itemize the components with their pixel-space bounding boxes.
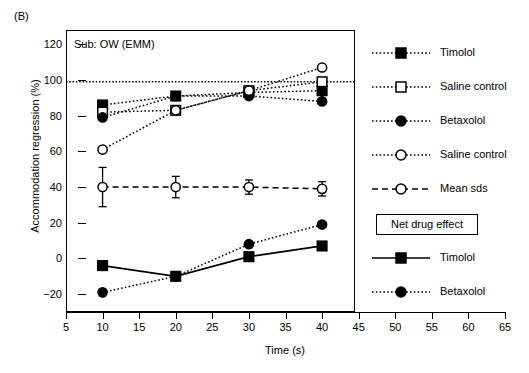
- legend-marker: [396, 184, 406, 194]
- legend-marker: [396, 82, 406, 92]
- x-tick-label: 10: [88, 321, 118, 333]
- legend-item[interactable]: Mean sds: [368, 174, 528, 208]
- legend-symbol: [368, 72, 434, 102]
- legend-symbol: [368, 106, 434, 136]
- x-tick-mark: [359, 312, 360, 319]
- y-axis-labels: −20020406080100120: [20, 0, 62, 373]
- legend-label: Betaxolol: [440, 285, 485, 297]
- legend-symbol: [368, 38, 434, 68]
- subject-annotation: Sub: OW (EMM): [74, 38, 155, 50]
- legend-item[interactable]: Saline control: [368, 140, 528, 174]
- legend-label: Timolol: [440, 251, 475, 263]
- legend: TimololSaline controlBetaxololSaline con…: [368, 38, 528, 208]
- x-tick-mark: [212, 312, 213, 319]
- x-tick-label: 45: [344, 321, 374, 333]
- legend-marker: [396, 253, 406, 263]
- y-tick-mark: [78, 223, 86, 224]
- legend-symbol: [368, 140, 434, 170]
- legend-label: Mean sds: [440, 182, 488, 194]
- legend-item[interactable]: Saline control: [368, 72, 528, 106]
- y-tick-mark: [78, 151, 86, 152]
- legend-symbol: [368, 277, 434, 307]
- legend-marker: [396, 48, 406, 58]
- x-tick-label: 35: [271, 321, 301, 333]
- x-tick-mark: [322, 312, 323, 319]
- x-tick-mark: [286, 312, 287, 319]
- y-tick-mark: [78, 116, 86, 117]
- x-tick-label: 60: [453, 321, 483, 333]
- legend-item[interactable]: Betaxolol: [368, 106, 528, 140]
- x-tick-label: 25: [197, 321, 227, 333]
- legend-marker: [396, 116, 406, 126]
- x-tick-label: 40: [307, 321, 337, 333]
- legend-marker: [396, 150, 406, 160]
- legend-label: Betaxolol: [440, 114, 485, 126]
- legend-marker: [396, 287, 406, 297]
- net-legend-item[interactable]: Betaxolol: [368, 277, 528, 311]
- legend-line-sample: [368, 72, 434, 102]
- legend-line-sample: [368, 38, 434, 68]
- x-axis-title: Time (s): [265, 344, 305, 356]
- legend-item[interactable]: Timolol: [368, 38, 528, 72]
- x-tick-mark: [505, 312, 506, 319]
- plot-area: [66, 30, 355, 312]
- y-tick-mark: [78, 44, 86, 45]
- legend-line-sample: [368, 243, 434, 273]
- x-tick-mark: [468, 312, 469, 319]
- net-drug-effect-label: Net drug effect: [376, 218, 478, 230]
- legend-line-sample: [368, 106, 434, 136]
- legend-line-sample: [368, 277, 434, 307]
- y-tick-label: −20: [28, 288, 62, 300]
- net-drug-effect-legend: TimololBetaxolol: [368, 243, 528, 311]
- y-tick-label: 0: [28, 252, 62, 264]
- x-tick-label: 30: [234, 321, 264, 333]
- net-legend-item[interactable]: Timolol: [368, 243, 528, 277]
- y-tick-mark: [78, 294, 86, 295]
- x-tick-label: 5: [51, 321, 81, 333]
- x-tick-label: 15: [124, 321, 154, 333]
- chart-figure: (B) Sub: OW (EMM) −20020406080100120 Acc…: [0, 0, 529, 373]
- legend-symbol: [368, 174, 434, 204]
- x-tick-label: 20: [161, 321, 191, 333]
- x-tick-mark: [249, 312, 250, 319]
- y-tick-mark: [78, 80, 86, 81]
- x-tick-mark: [139, 312, 140, 319]
- y-tick-mark: [78, 258, 86, 259]
- legend-symbol: [368, 243, 434, 273]
- x-tick-mark: [103, 312, 104, 319]
- x-tick-label: 55: [417, 321, 447, 333]
- x-tick-mark: [176, 312, 177, 319]
- legend-label: Saline control: [440, 80, 507, 92]
- x-tick-mark: [432, 312, 433, 319]
- legend-label: Saline control: [440, 148, 507, 160]
- legend-label: Timolol: [440, 46, 475, 58]
- y-tick-mark: [78, 187, 86, 188]
- y-tick-label: 120: [28, 38, 62, 50]
- x-tick-label: 65: [490, 321, 520, 333]
- legend-line-sample: [368, 140, 434, 170]
- x-tick-mark: [395, 312, 396, 319]
- x-tick-label: 50: [380, 321, 410, 333]
- legend-line-sample: [368, 174, 434, 204]
- y-axis-title: Accommodation regression (%): [29, 61, 41, 251]
- x-tick-mark: [66, 312, 67, 319]
